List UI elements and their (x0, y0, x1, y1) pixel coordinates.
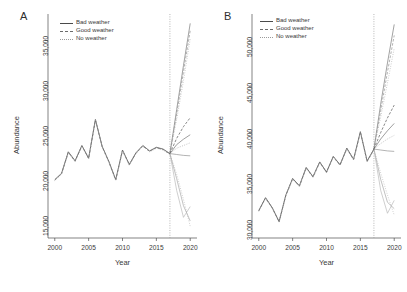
panel-a: A Bad weatherGood weatherNo weather 15,0… (0, 0, 203, 292)
x-tick-label: 2010 (111, 244, 135, 251)
series-line (259, 132, 374, 222)
y-axis-title: Abundance (216, 116, 225, 154)
x-tick-label: 2020 (178, 244, 202, 251)
forecast-line (170, 31, 190, 154)
y-tick-label: 20,000 (42, 171, 49, 191)
legend-label: Bad weather (76, 19, 110, 25)
legend-line-swatch (260, 29, 273, 30)
y-tick-label: 30,000 (42, 81, 49, 101)
y-tick-label: 50,000 (246, 37, 253, 57)
forecast-line (374, 149, 394, 209)
legend-line-swatch (60, 23, 73, 24)
x-axis-title: Year (48, 258, 197, 267)
legend-label: Good weather (76, 27, 114, 33)
x-tick-label: 2005 (77, 244, 101, 251)
y-tick-label: 45,000 (246, 83, 253, 103)
y-tick-label: 25,000 (42, 126, 49, 146)
historical-series (55, 119, 170, 180)
x-axis-title: Year (252, 258, 401, 267)
legend-label: No weather (76, 35, 107, 41)
y-tick-label: 35,000 (42, 36, 49, 56)
y-tick-label: 40,000 (246, 128, 253, 148)
panel-a-plot (0, 0, 203, 292)
forecast-fan (170, 23, 190, 226)
historical-series (259, 132, 374, 223)
forecast-line (374, 149, 394, 215)
legend-line-swatch (260, 37, 273, 38)
forecast-line (374, 149, 394, 151)
legend-label: No weather (276, 33, 307, 39)
y-tick-label: 30,000 (246, 220, 253, 240)
x-tick-label: 2000 (247, 244, 271, 251)
legend-line-swatch (60, 31, 73, 32)
forecast-fan (374, 24, 394, 215)
panel-b-plot (204, 0, 407, 292)
legend-line-swatch (260, 21, 273, 22)
y-tick-label: 35,000 (246, 174, 253, 194)
forecast-line (170, 143, 190, 154)
legend-line-swatch (60, 39, 73, 40)
forecast-line (170, 23, 190, 153)
x-tick-label: 2020 (382, 244, 406, 251)
forecast-line (374, 135, 394, 149)
x-tick-label: 2005 (281, 244, 305, 251)
forecast-line (170, 154, 190, 156)
forecast-line (374, 35, 394, 149)
panel-b: B Bad weatherGood weatherNo weather 30,0… (204, 0, 407, 292)
x-tick-label: 2000 (43, 244, 67, 251)
legend-label: Bad weather (276, 17, 310, 23)
x-tick-label: 2010 (315, 244, 339, 251)
legend-label: Good weather (276, 25, 314, 31)
y-axis-title: Abundance (12, 116, 21, 154)
x-tick-label: 2015 (144, 244, 168, 251)
forecast-line (374, 48, 394, 149)
x-tick-label: 2015 (348, 244, 372, 251)
y-tick-label: 15,000 (42, 216, 49, 236)
figure-root: A Bad weatherGood weatherNo weather 15,0… (0, 0, 407, 292)
